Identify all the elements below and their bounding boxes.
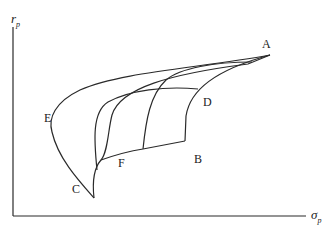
curve-outer-A-E-C	[51, 55, 270, 198]
y-axis-label: rp	[11, 12, 20, 29]
curve-middle-vertical	[143, 62, 252, 149]
point-label-F: F	[118, 157, 125, 169]
curve-C-F-top	[93, 55, 270, 198]
point-label-A: A	[262, 38, 271, 50]
curve-B-D-A	[185, 55, 270, 141]
point-label-C: C	[72, 183, 80, 195]
point-label-B: B	[194, 153, 202, 165]
x-axis-label: σp	[311, 208, 321, 225]
curve-inner-to-D	[95, 88, 198, 170]
point-label-D: D	[203, 96, 212, 108]
point-label-E: E	[44, 112, 51, 124]
